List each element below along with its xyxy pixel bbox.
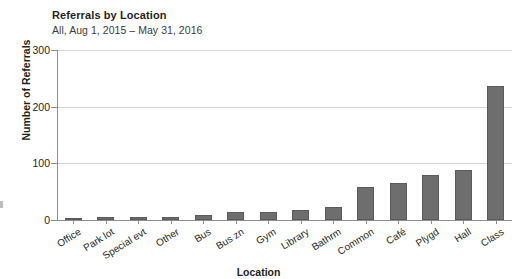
y-tick-label-200: 200 (4, 101, 50, 113)
x-tick-8 (333, 220, 334, 224)
y-tick-label-300: 300 (4, 44, 50, 56)
chart-title: Referrals by Location (52, 9, 202, 23)
x-tick-3 (171, 220, 172, 224)
referrals-by-location-chart: Referrals by Location All, Aug 1, 2015 –… (0, 0, 517, 279)
x-tick-2 (138, 220, 139, 224)
x-axis-line (57, 220, 512, 221)
x-tick-6 (268, 220, 269, 224)
x-tick-0 (73, 220, 74, 224)
y-axis-ticks: 300 200 100 0 (0, 0, 50, 279)
x-tick-10 (398, 220, 399, 224)
x-tick-5 (236, 220, 237, 224)
bar-caf-[interactable] (390, 183, 407, 220)
y-tick-label-0: 0 (4, 214, 50, 226)
x-tick-11 (431, 220, 432, 224)
x-tick-9 (366, 220, 367, 224)
bar-bus-zn[interactable] (227, 212, 244, 221)
bar-series (57, 50, 512, 220)
chart-subtitle: All, Aug 1, 2015 – May 31, 2016 (52, 24, 202, 37)
bar-gym[interactable] (260, 212, 277, 221)
bar-bathrm[interactable] (325, 207, 342, 220)
x-tick-13 (496, 220, 497, 224)
x-axis-title: Location (0, 266, 517, 278)
chart-header: Referrals by Location All, Aug 1, 2015 –… (52, 9, 202, 37)
x-tick-7 (301, 220, 302, 224)
x-tick-4 (203, 220, 204, 224)
bar-hall[interactable] (455, 170, 472, 220)
x-tick-12 (463, 220, 464, 224)
bar-class[interactable] (487, 86, 504, 220)
bar-plygd[interactable] (422, 175, 439, 220)
bar-common[interactable] (357, 187, 374, 220)
y-tick-label-100: 100 (4, 157, 50, 169)
bar-library[interactable] (292, 210, 309, 220)
x-tick-1 (106, 220, 107, 224)
